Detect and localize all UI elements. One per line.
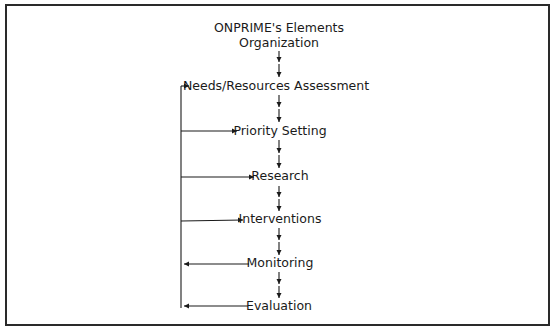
step-priority-setting: Priority Setting bbox=[233, 124, 326, 138]
step-interventions: Interventions bbox=[239, 212, 322, 226]
title-line-2: Organization bbox=[239, 36, 319, 50]
step-monitoring: Monitoring bbox=[247, 256, 314, 270]
step-research: Research bbox=[251, 169, 308, 183]
step-needs-resources-assessment: Needs/Resources Assessment bbox=[183, 79, 369, 93]
loop-arrow-interventions bbox=[181, 220, 243, 221]
title-line-1: ONPRIME's Elements bbox=[214, 21, 344, 35]
step-evaluation: Evaluation bbox=[246, 299, 312, 313]
